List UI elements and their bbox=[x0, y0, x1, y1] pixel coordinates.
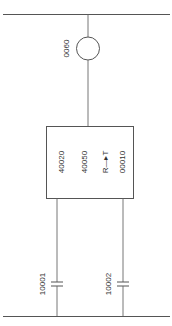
meter-label: 0060 bbox=[62, 39, 71, 57]
capacitor-label-right: 10002 bbox=[104, 272, 113, 295]
device-label-3: R—▸T bbox=[101, 151, 110, 174]
circle-meter-icon bbox=[77, 37, 100, 60]
device-label-4: 00010 bbox=[118, 150, 127, 173]
device-label-2: 40050 bbox=[80, 150, 89, 173]
device-label-1: 40020 bbox=[57, 150, 66, 173]
schematic-diagram: 0060 40020 40050 R—▸T 00010 10001 10002 bbox=[0, 0, 172, 326]
capacitor-label-left: 10001 bbox=[38, 272, 47, 295]
